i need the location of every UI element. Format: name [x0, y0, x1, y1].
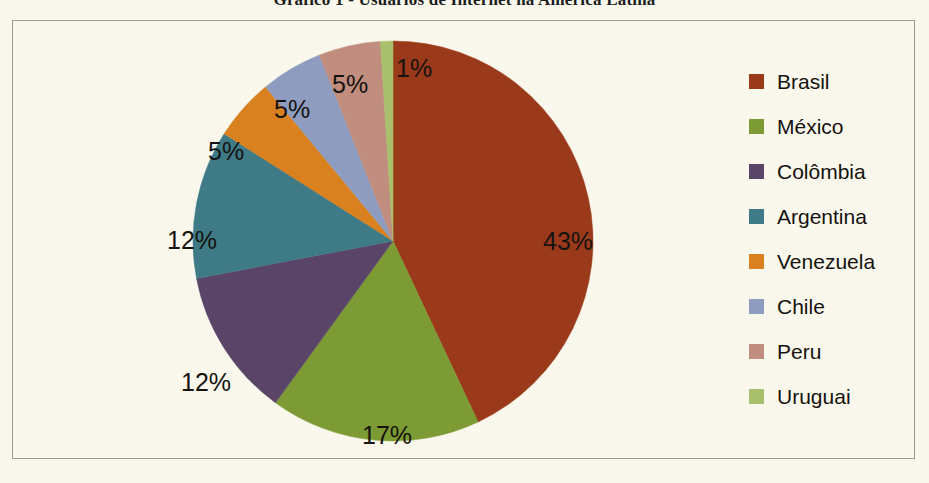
- legend-item-label: Peru: [777, 341, 821, 362]
- legend-item-label: Venezuela: [777, 251, 875, 272]
- legend-item-colmbia[interactable]: Colômbia: [749, 149, 909, 194]
- chart-title: Gráfico 1 - Usuários de Internet na Amér…: [0, 0, 929, 9]
- legend-item-label: Brasil: [777, 71, 830, 92]
- slice-label-chile: 5%: [274, 97, 310, 122]
- legend-item-peru[interactable]: Peru: [749, 329, 909, 374]
- pie-svg: [191, 39, 595, 443]
- legend-item-mxico[interactable]: México: [749, 104, 909, 149]
- legend-item-chile[interactable]: Chile: [749, 284, 909, 329]
- legend-swatch-icon: [749, 164, 764, 179]
- legend-swatch-icon: [749, 74, 764, 89]
- legend-swatch-icon: [749, 254, 764, 269]
- plot-area: 43% 17% 12% 12% 5% 5% 5% 1% BrasilMéxico…: [13, 21, 916, 460]
- slice-label-colombia: 12%: [181, 370, 231, 395]
- pie-chart: 43% 17% 12% 12% 5% 5% 5% 1%: [191, 39, 595, 443]
- slice-label-uruguai: 1%: [396, 56, 432, 81]
- legend-item-label: México: [777, 116, 844, 137]
- legend-item-label: Colômbia: [777, 161, 866, 182]
- legend-item-venezuela[interactable]: Venezuela: [749, 239, 909, 284]
- legend-swatch-icon: [749, 299, 764, 314]
- legend-item-brasil[interactable]: Brasil: [749, 59, 909, 104]
- legend-swatch-icon: [749, 389, 764, 404]
- chart-frame: 43% 17% 12% 12% 5% 5% 5% 1% BrasilMéxico…: [12, 20, 915, 459]
- legend-item-argentina[interactable]: Argentina: [749, 194, 909, 239]
- slice-label-venezuela: 5%: [208, 139, 244, 164]
- legend-swatch-icon: [749, 344, 764, 359]
- slice-label-peru: 5%: [332, 72, 368, 97]
- legend-item-label: Chile: [777, 296, 825, 317]
- slice-label-brasil: 43%: [543, 229, 593, 254]
- legend-item-label: Uruguai: [777, 386, 851, 407]
- legend-swatch-icon: [749, 209, 764, 224]
- chart-legend: BrasilMéxicoColômbiaArgentinaVenezuelaCh…: [749, 59, 909, 419]
- legend-swatch-icon: [749, 119, 764, 134]
- pie-slice-group: [193, 41, 593, 441]
- legend-item-uruguai[interactable]: Uruguai: [749, 374, 909, 419]
- slice-label-argentina: 12%: [167, 228, 217, 253]
- slice-label-mexico: 17%: [362, 423, 412, 448]
- legend-item-label: Argentina: [777, 206, 867, 227]
